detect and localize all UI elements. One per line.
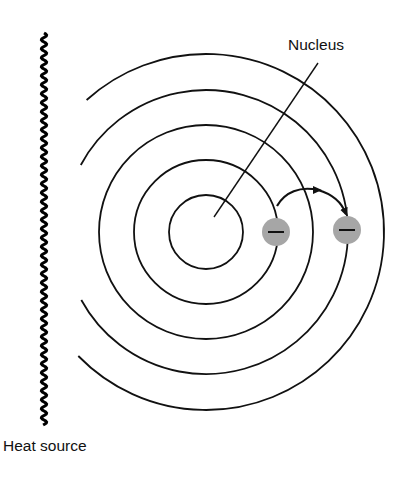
electron-excitation-diagram: Nucleus Heat source [0,0,406,482]
orbit-2 [134,160,278,304]
orbit-1 [169,195,243,269]
electron-excited [333,216,361,244]
nucleus-label: Nucleus [288,36,344,53]
transition-arrow-midhead [313,186,322,194]
electron-ground [262,218,290,246]
nucleus-pointer-line [214,63,318,217]
orbit-4 [81,90,348,374]
heat-source-label: Heat source [3,437,87,454]
heat-source-wave [41,33,46,425]
